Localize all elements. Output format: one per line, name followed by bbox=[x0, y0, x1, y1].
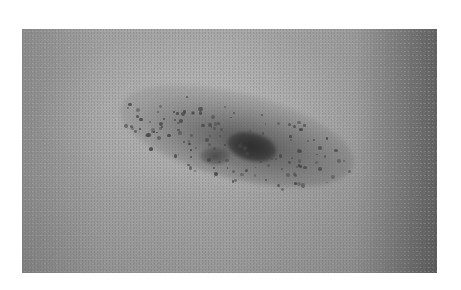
lesion-dark-core bbox=[224, 127, 279, 166]
lesion-area bbox=[110, 65, 364, 207]
skin-texture bbox=[22, 29, 437, 273]
lesion-secondary-core bbox=[200, 147, 230, 165]
skin-lesion-photo bbox=[22, 29, 437, 273]
